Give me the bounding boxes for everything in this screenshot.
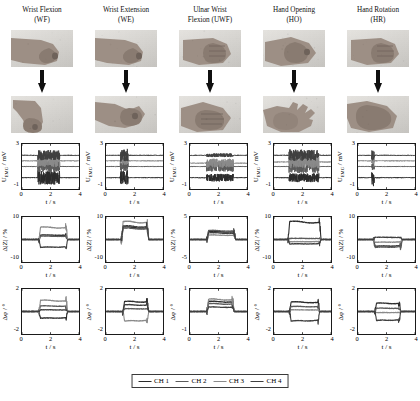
plot-impedance-we: Δ|Z| / %10-10024t / s — [84, 212, 168, 284]
x-tick: 2 — [49, 190, 52, 197]
x-axis-label: t / s — [105, 343, 164, 351]
y-tick-max: 3 — [173, 139, 187, 146]
plot-impedance-hr: Δ|Z| / %10-10024t / s — [336, 212, 420, 284]
series-ch1 — [106, 298, 163, 315]
plot-frame — [273, 216, 332, 263]
column-title-line2: (WF) — [2, 16, 82, 26]
y-tick-min: -1 — [5, 180, 19, 187]
column-title-line2: Flexion (UWF) — [170, 16, 250, 26]
y-tick-max: 3 — [89, 139, 103, 146]
series-ch4 — [190, 153, 247, 157]
plot-emg-uwf: UEMG / mV3-1024t / s — [168, 139, 252, 212]
x-tick: 0 — [271, 335, 274, 342]
plot-frame — [273, 288, 332, 335]
arrow-cell-we — [84, 68, 168, 94]
y-tick-min: -1 — [257, 180, 271, 187]
legend-label: CH 2 — [192, 377, 207, 385]
series-ch3 — [358, 158, 415, 164]
legend-item-ch1: CH 1 — [139, 377, 169, 385]
x-tick: 4 — [78, 263, 81, 270]
series-ch4 — [358, 237, 415, 240]
plot-frame — [357, 288, 416, 335]
plot-frame — [105, 143, 164, 190]
plot-row-impedance: Δ|Z| / %10-10024t / sΔ|Z| / %10-10024t /… — [0, 212, 420, 284]
photo-cell-wf-gesture — [0, 95, 84, 133]
photo-cell-ho-gesture — [252, 95, 336, 133]
x-tick: 2 — [301, 335, 304, 342]
x-tick: 2 — [385, 335, 388, 342]
x-tick: 0 — [355, 335, 358, 342]
plot-frame — [189, 216, 248, 263]
y-tick-max: 3 — [5, 139, 19, 146]
photo-cell-we-gesture — [84, 95, 168, 133]
x-tick: 2 — [217, 263, 220, 270]
x-axis-label: t / s — [273, 198, 332, 206]
y-tick-min: -10 — [341, 253, 355, 260]
legend-label: CH 4 — [266, 377, 281, 385]
series-ch4 — [22, 238, 79, 248]
legend-item-ch2: CH 2 — [176, 377, 206, 385]
photo-row-rest — [0, 29, 420, 67]
x-tick: 4 — [162, 190, 165, 197]
plot-area — [105, 143, 164, 190]
plot-emg-hr: UEMG / mV3-1024t / s — [336, 139, 420, 212]
plot-phase-uwf: Δφ / °1-1024t / s — [168, 284, 252, 362]
x-tick: 0 — [355, 190, 358, 197]
plot-impedance-ho: Δ|Z| / %10-10024t / s — [252, 212, 336, 284]
column-header-row: Wrist Flexion(WF)Wrist Extension(WE)Ulna… — [0, 6, 420, 30]
x-tick: 4 — [414, 335, 417, 342]
legend-label: CH 1 — [154, 377, 169, 385]
x-tick: 2 — [49, 335, 52, 342]
plot-frame — [21, 216, 80, 263]
x-tick: 0 — [19, 335, 22, 342]
x-axis-label: t / s — [189, 198, 248, 206]
y-tick-min: -10 — [5, 253, 19, 260]
column-title-line1: Wrist Extension — [86, 6, 166, 16]
x-tick: 4 — [414, 263, 417, 270]
plot-area — [105, 216, 164, 263]
series-ch3 — [106, 157, 163, 165]
hand-photo-fist-angled-rest — [263, 30, 325, 67]
series-ch4 — [106, 222, 163, 241]
x-tick: 4 — [162, 335, 165, 342]
x-tick: 2 — [385, 190, 388, 197]
y-tick-min: -2 — [257, 325, 271, 332]
plot-frame — [21, 288, 80, 335]
plot-area — [189, 288, 248, 335]
x-axis-label: t / s — [21, 271, 80, 279]
x-axis-label: t / s — [21, 343, 80, 351]
plot-area — [357, 143, 416, 190]
column-title-ho: Hand Opening(HO) — [252, 6, 336, 30]
y-tick-min: -1 — [173, 325, 187, 332]
y-tick-max: 10 — [257, 212, 271, 219]
x-tick: 4 — [246, 335, 249, 342]
y-tick-max: 1 — [173, 284, 187, 291]
x-tick: 2 — [133, 335, 136, 342]
hand-photo-fist-side-rest — [95, 30, 157, 67]
x-tick: 4 — [414, 190, 417, 197]
figure-panel: Wrist Flexion(WF)Wrist Extension(WE)Ulna… — [0, 0, 420, 401]
series-ch4 — [274, 149, 331, 160]
x-tick: 0 — [187, 263, 190, 270]
x-tick: 0 — [103, 263, 106, 270]
plot-area — [105, 288, 164, 335]
x-axis-label: t / s — [273, 271, 332, 279]
x-tick: 0 — [187, 335, 190, 342]
arrow-cell-uwf — [168, 68, 252, 94]
column-title-line1: Hand Opening — [254, 6, 334, 16]
x-tick: 2 — [301, 263, 304, 270]
down-arrow-icon — [122, 70, 131, 93]
x-tick: 4 — [330, 263, 333, 270]
column-title-line2: (HR) — [338, 16, 418, 26]
series-ch4 — [22, 309, 79, 311]
x-tick: 2 — [217, 335, 220, 342]
arrow-cell-wf — [0, 68, 84, 94]
plot-area — [189, 143, 248, 190]
series-ch4 — [358, 151, 415, 161]
hand-photo-fist-front-rest — [179, 30, 241, 67]
plot-frame — [273, 143, 332, 190]
column-title-line2: (HO) — [254, 16, 334, 26]
legend-item-ch4: CH 4 — [251, 377, 281, 385]
y-tick-max: 2 — [341, 284, 355, 291]
x-tick: 4 — [330, 190, 333, 197]
